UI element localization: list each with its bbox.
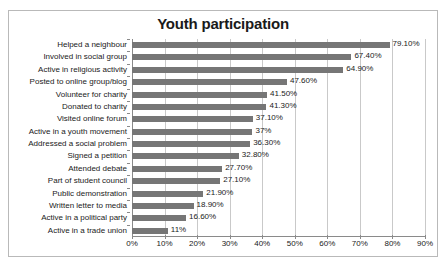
bar-value-label: 47.60% <box>290 75 317 87</box>
category-axis-labels: Helped a neighbourInvolved in social gro… <box>17 39 130 237</box>
x-tick-label: 0% <box>126 239 138 248</box>
x-tick-mark <box>165 235 166 239</box>
x-axis-line <box>132 236 425 237</box>
bar <box>132 215 186 221</box>
bar <box>132 153 239 159</box>
category-tick <box>127 76 130 77</box>
category-label: Written letter to media <box>49 200 127 212</box>
bar-row: 18.90% <box>132 200 425 212</box>
category-tick <box>127 89 130 90</box>
category-tick <box>127 113 130 114</box>
bar <box>132 42 390 48</box>
category-label: Helped a neighbour <box>57 39 127 51</box>
bar-value-label: 37% <box>255 125 271 137</box>
category-tick <box>127 188 130 189</box>
bar <box>132 79 287 85</box>
category-tick <box>127 175 130 176</box>
bar-row: 21.90% <box>132 188 425 200</box>
bar <box>132 141 250 147</box>
bar-row: 37.10% <box>132 113 425 125</box>
x-tick-mark <box>360 235 361 239</box>
x-tick-mark <box>425 235 426 239</box>
category-tick <box>127 200 130 201</box>
category-tick <box>127 39 130 40</box>
category-label: Signed a petition <box>67 150 127 162</box>
x-tick-mark <box>230 235 231 239</box>
x-tick-mark <box>392 235 393 239</box>
x-tick-mark <box>295 235 296 239</box>
category-tick <box>127 101 130 102</box>
bar <box>132 67 343 73</box>
x-tick-label: 10% <box>157 239 173 248</box>
category-label: Donated to charity <box>62 101 127 113</box>
bar <box>132 92 267 98</box>
bar-value-label: 32.80% <box>242 149 269 161</box>
bar-row: 27.70% <box>132 163 425 175</box>
bar-value-label: 37.10% <box>256 112 283 124</box>
bar-value-label: 16.60% <box>189 211 216 223</box>
bar-row: 67.40% <box>132 51 425 63</box>
bar-value-label: 18.90% <box>197 199 224 211</box>
bar-value-label: 41.30% <box>269 100 296 112</box>
x-tick-label: 30% <box>222 239 238 248</box>
x-tick-label: 80% <box>384 239 400 248</box>
category-label: Active in religious activity <box>38 64 127 76</box>
category-label: Active in a youth movement <box>29 126 127 138</box>
category-tick <box>127 150 130 151</box>
bar <box>132 54 351 60</box>
category-label: Part of student council <box>48 175 127 187</box>
x-tick-mark <box>132 235 133 239</box>
bar <box>132 178 220 184</box>
x-tick-mark <box>327 235 328 239</box>
x-tick-mark <box>197 235 198 239</box>
bar-row: 36.30% <box>132 138 425 150</box>
bar <box>132 203 194 209</box>
bar <box>132 228 168 234</box>
value-axis-labels: 0%10%20%30%40%50%60%70%80%90% <box>132 239 425 253</box>
bar-value-label: 21.90% <box>206 187 233 199</box>
bar-value-label: 27.10% <box>223 174 250 186</box>
category-label: Involved in social group <box>43 51 127 63</box>
x-tick-label: 60% <box>319 239 335 248</box>
bar-value-label: 11% <box>171 224 186 236</box>
x-tick-label: 50% <box>287 239 303 248</box>
bar <box>132 166 222 172</box>
category-tick <box>127 138 130 139</box>
category-label: Active in a political party <box>41 212 127 224</box>
category-label: Volunteer for charity <box>56 89 127 101</box>
bar-row: 27.10% <box>132 175 425 187</box>
bar-value-label: 79.10% <box>393 38 420 50</box>
bar-row: 64.90% <box>132 64 425 76</box>
bar <box>132 116 253 122</box>
bar-value-label: 27.70% <box>225 162 252 174</box>
gridline-90% <box>425 39 426 237</box>
x-tick-label: 20% <box>189 239 205 248</box>
category-tick <box>127 163 130 164</box>
category-label: Public demonstration <box>52 188 127 200</box>
bar-row: 32.80% <box>132 150 425 162</box>
category-label: Addressed a social problem <box>28 138 127 150</box>
category-tick <box>127 126 130 127</box>
category-label: Active in a trade union <box>48 225 127 237</box>
category-tick <box>127 64 130 65</box>
bar-value-label: 67.40% <box>354 50 381 62</box>
plot-area: 79.10%67.40%64.90%47.60%41.50%41.30%37.1… <box>132 39 425 237</box>
x-tick-label: 40% <box>254 239 270 248</box>
category-tick <box>127 212 130 213</box>
bar <box>132 129 252 135</box>
chart-title: Youth participation <box>9 15 437 32</box>
category-tick <box>127 51 130 52</box>
bar-value-label: 64.90% <box>346 63 373 75</box>
category-label: Posted to online group/blog <box>30 76 127 88</box>
bar <box>132 104 266 110</box>
category-tick <box>127 225 130 226</box>
x-tick-mark <box>262 235 263 239</box>
x-tick-label: 90% <box>417 239 433 248</box>
category-label: Attended debate <box>68 163 127 175</box>
bar-value-label: 36.30% <box>253 137 280 149</box>
bar <box>132 191 203 197</box>
category-label: Visited online forum <box>57 113 127 125</box>
bar-value-label: 41.50% <box>270 88 297 100</box>
x-tick-label: 70% <box>352 239 368 248</box>
chart-frame: Youth participation Helped a neighbourIn… <box>8 10 438 257</box>
